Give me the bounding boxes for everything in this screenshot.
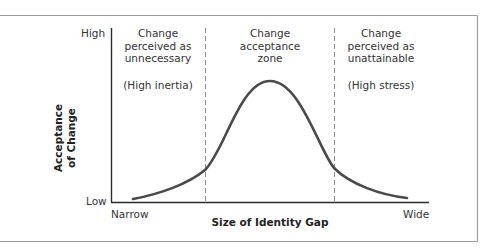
zone-left-subtitle: (High inertia): [98, 79, 218, 92]
zone-left-line3: unnecessary: [98, 52, 218, 65]
acceptance-curve: [133, 81, 407, 199]
zone-middle-line3: zone: [210, 52, 330, 65]
y-axis-title-line1: Acceptance: [52, 104, 65, 172]
zone-middle-line1: Change: [210, 27, 330, 40]
zone-left-text: Change perceived as unnecessary (High in…: [98, 27, 218, 91]
zone-right-line2: perceived as: [321, 40, 441, 53]
y-axis-title: Acceptance of Change: [52, 104, 77, 172]
zone-left-line1: Change: [98, 27, 218, 40]
zone-right-line3: unattainable: [321, 52, 441, 65]
x-axis-title: Size of Identity Gap: [212, 216, 329, 228]
zone-right-subtitle: (High stress): [321, 79, 441, 92]
zone-left-line2: perceived as: [98, 40, 218, 53]
zone-middle-line2: acceptance: [210, 40, 330, 53]
x-wide-label: Wide: [403, 208, 429, 220]
y-axis-title-line2: of Change: [64, 104, 77, 172]
identity-gap-diagram: High Low Narrow Wide Acceptance of Chang…: [0, 0, 498, 252]
x-narrow-label: Narrow: [111, 208, 149, 220]
y-low-label: Low: [86, 195, 107, 207]
zone-right-line1: Change: [321, 27, 441, 40]
zone-middle-text: Change acceptance zone: [210, 27, 330, 65]
zone-right-text: Change perceived as unattainable (High s…: [321, 27, 441, 91]
